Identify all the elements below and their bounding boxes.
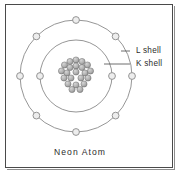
nucleon bbox=[79, 64, 85, 70]
electron bbox=[73, 17, 80, 24]
nucleon bbox=[67, 58, 73, 64]
nucleon bbox=[73, 63, 79, 69]
nucleon bbox=[61, 75, 67, 81]
electron bbox=[112, 112, 119, 119]
electron bbox=[109, 73, 116, 80]
nucleon bbox=[79, 58, 85, 64]
atom-diagram: L shellK shell Neon Atom bbox=[0, 0, 182, 179]
nucleon bbox=[68, 75, 74, 81]
electron bbox=[33, 112, 40, 119]
electron bbox=[33, 33, 40, 40]
shell-label-l: L shell bbox=[136, 46, 161, 55]
shell-label-k: K shell bbox=[136, 59, 162, 68]
electron bbox=[73, 129, 80, 136]
nucleon bbox=[77, 86, 83, 92]
nucleon bbox=[73, 57, 79, 63]
nucleon bbox=[85, 75, 91, 81]
electron bbox=[129, 73, 136, 80]
electron bbox=[37, 73, 44, 80]
nucleus bbox=[58, 57, 93, 93]
nucleon bbox=[81, 81, 87, 87]
nucleon bbox=[73, 69, 79, 75]
nucleon bbox=[69, 86, 75, 92]
nucleon bbox=[67, 64, 73, 70]
electrons-group bbox=[17, 17, 136, 136]
nucleon bbox=[78, 75, 84, 81]
neon-atom-figure: L shellK shell Neon Atom bbox=[0, 0, 182, 179]
figure-caption: Neon Atom bbox=[54, 147, 106, 157]
shell-annotations-group: L shellK shell bbox=[104, 46, 162, 68]
nucleon bbox=[87, 68, 93, 74]
electron bbox=[112, 33, 119, 40]
nucleon bbox=[65, 81, 71, 87]
electron bbox=[17, 73, 24, 80]
shell-ring-k bbox=[40, 40, 112, 112]
